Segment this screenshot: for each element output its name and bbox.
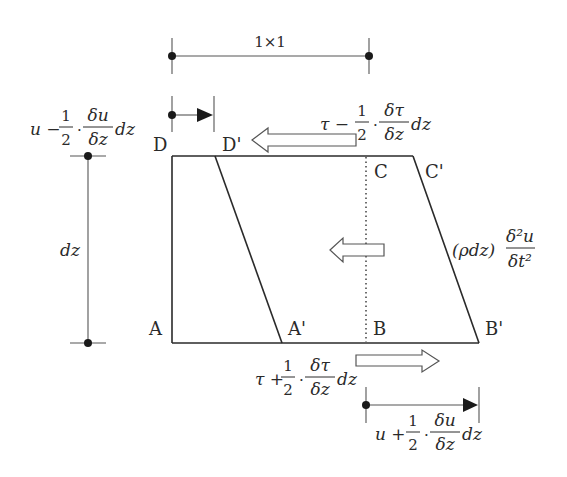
shear-bottom-arrow [356,350,439,372]
label-A: A [148,318,163,339]
bottom-displacement-arrow [362,387,479,423]
svg-text:τ −: τ − [320,114,349,134]
svg-text:δz: δz [384,124,404,144]
svg-text:2: 2 [283,381,293,399]
shear-element-diagram: 1×1 u − 1 2 · δu δz dz dz [0,0,567,477]
displacement-top-label: u − 1 2 · δu δz dz [30,105,136,149]
label-B-prime: B' [485,318,503,339]
left-dimension: dz [60,152,106,347]
top-dimension: 1×1 [168,33,373,74]
label-C: C [374,161,388,182]
left-dimension-label: dz [60,240,81,260]
svg-text:u +: u + [375,424,406,444]
svg-text:δz: δz [310,379,330,399]
svg-text:dz: dz [462,424,483,444]
svg-text:δz: δz [88,129,108,149]
svg-text:1: 1 [283,357,293,375]
inertia-arrow [330,238,384,262]
svg-text:δu: δu [87,105,108,125]
svg-text:2: 2 [61,131,71,149]
svg-text:δz: δz [435,434,455,454]
svg-text:dz: dz [337,369,358,389]
top-displacement-arrow [168,96,214,132]
displacement-bottom-label: u + 1 2 · δu δz dz [375,410,483,454]
label-D-prime: D' [222,134,241,155]
svg-text:dz: dz [411,114,432,134]
svg-text:1: 1 [408,412,418,430]
svg-text:δt²: δt² [508,251,532,271]
label-A-prime: A' [287,318,306,339]
svg-text:u −: u − [30,119,61,139]
top-dimension-label: 1×1 [254,33,286,51]
svg-text:δ²u: δ²u [506,226,534,246]
svg-text:2: 2 [357,126,367,144]
svg-text:δτ: δτ [384,100,404,120]
svg-text:2: 2 [408,436,418,454]
svg-text:(ρdz): (ρdz) [452,240,495,260]
svg-text:·: · [373,116,378,134]
svg-text:1: 1 [61,107,71,125]
svg-text:·: · [424,426,429,444]
svg-text:δu: δu [434,410,455,430]
svg-text:dz: dz [115,119,136,139]
svg-text:τ +: τ + [255,369,284,389]
inertia-force-label: (ρdz) δ²u δt² [452,226,535,271]
element-outline [172,156,479,343]
svg-text:1: 1 [357,102,367,120]
label-B: B [373,318,386,339]
shear-bottom-label: τ + 1 2 · δτ δz dz [255,355,358,399]
label-C-prime: C' [425,161,444,182]
svg-text:·: · [77,121,82,139]
svg-text:δτ: δτ [310,355,330,375]
svg-text:·: · [299,371,304,389]
label-D: D [153,134,167,155]
